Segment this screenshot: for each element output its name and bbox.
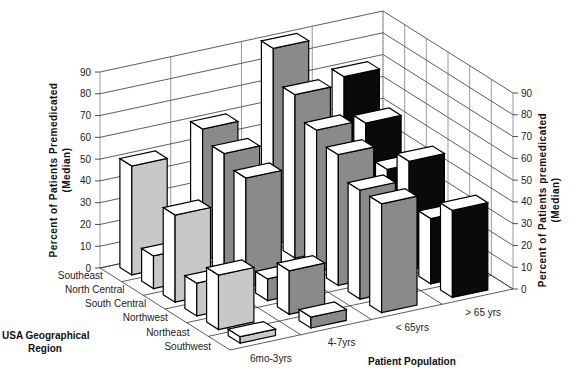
region-label: South Central xyxy=(85,298,146,309)
y-tick-right: 40 xyxy=(521,196,533,207)
bar-southwest-2 xyxy=(370,189,417,313)
y-tick-right: 50 xyxy=(521,175,533,186)
y-tick-right: 10 xyxy=(521,262,533,273)
category-label: 6mo-3yrs xyxy=(250,353,292,364)
y-axis-subtitle-right: (Median) xyxy=(550,177,561,222)
region-label: Northwest xyxy=(123,312,168,323)
region-label: Northeast xyxy=(146,327,190,338)
bar-southwest-3 xyxy=(441,195,488,297)
y-tick-left: 60 xyxy=(80,132,92,143)
y-tick-left: 30 xyxy=(80,197,92,208)
y-tick-left: 80 xyxy=(80,88,92,99)
region-label: Southeast xyxy=(58,270,103,281)
category-label: > 65 yrs xyxy=(465,307,501,318)
y-tick-right: 80 xyxy=(521,109,533,120)
y-tick-right: 20 xyxy=(521,240,533,251)
region-label: North Central xyxy=(65,284,124,295)
x-axis-title: Patient Population xyxy=(368,356,456,367)
y-axis-title-right: Percent of Patients premedicated xyxy=(537,113,548,287)
y-tick-right: 70 xyxy=(521,131,533,142)
y-tick-left: 70 xyxy=(80,110,92,121)
y-tick-left: 10 xyxy=(80,241,92,252)
y-tick-right: 0 xyxy=(521,284,527,295)
y-tick-right: 90 xyxy=(521,88,533,99)
y-axis-subtitle-left: (Median) xyxy=(61,147,72,192)
region-axis-title: USA Geographical xyxy=(2,330,90,341)
y-tick-left: 20 xyxy=(80,219,92,230)
y-tick-right: 30 xyxy=(521,218,533,229)
region-label: Southwest xyxy=(164,341,211,352)
y-tick-right: 60 xyxy=(521,153,533,164)
bar-chart-3d: 01020304050607080900102030405060708090So… xyxy=(0,0,579,382)
y-axis-title-left: Percent of Patients Premedicated xyxy=(48,83,59,258)
chart-bars xyxy=(120,33,488,343)
bar-northeast-0 xyxy=(207,260,254,330)
y-tick-left: 90 xyxy=(80,67,92,78)
y-tick-left: 40 xyxy=(80,175,92,186)
y-tick-left: 50 xyxy=(80,154,92,165)
region-axis-title-line2: Region xyxy=(28,343,62,354)
category-label: 4-7yrs xyxy=(328,337,356,348)
category-label: < 65yrs xyxy=(396,322,429,333)
